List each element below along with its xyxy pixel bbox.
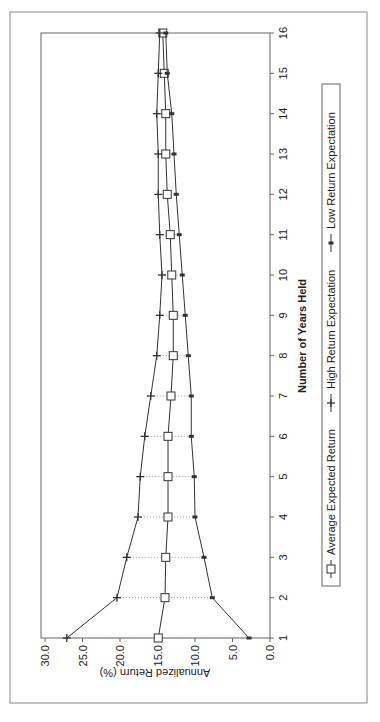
legend-label: Average Expected Return <box>325 429 337 555</box>
square-marker-icon <box>168 271 176 279</box>
y-tick-label: 5.0 <box>227 645 239 660</box>
x-tick-label: 14 <box>277 108 289 120</box>
square-marker-icon <box>167 392 175 400</box>
legend-label: High Return Expectation <box>325 270 337 389</box>
x-tick-label: 16 <box>277 27 289 39</box>
dash-marker-icon <box>202 556 207 559</box>
y-tick-label: 20.0 <box>114 645 126 666</box>
x-tick-label: 8 <box>277 353 289 359</box>
dash-marker-icon <box>186 354 191 357</box>
x-tick-label: 2 <box>277 595 289 601</box>
square-marker-icon <box>162 110 170 118</box>
x-tick-label: 10 <box>277 269 289 281</box>
y-axis-title: Annualized Return (%) <box>100 667 211 679</box>
dash-marker-icon <box>163 32 168 35</box>
x-tick-label: 9 <box>277 312 289 318</box>
x-tick-label: 6 <box>277 433 289 439</box>
square-marker-icon <box>169 311 177 319</box>
x-tick-label: 13 <box>277 148 289 160</box>
y-tick-label: 25.0 <box>77 645 89 666</box>
square-marker-icon <box>327 565 335 573</box>
x-tick-label: 12 <box>277 188 289 200</box>
x-tick-label: 11 <box>277 229 289 240</box>
x-tick-label: 15 <box>277 67 289 79</box>
x-axis-title: Number of Years Held <box>296 279 308 393</box>
y-tick-label: 30.0 <box>39 645 51 666</box>
dash-marker-icon <box>183 314 188 317</box>
dash-marker-icon <box>210 596 215 599</box>
square-marker-icon <box>162 150 170 158</box>
y-tick-label: 10.0 <box>189 645 201 666</box>
plot-area <box>41 33 270 638</box>
square-marker-icon <box>166 231 174 239</box>
square-marker-icon <box>154 634 162 642</box>
line-chart: 0.05.010.015.020.025.030.0 1234567891011… <box>0 0 380 722</box>
y-tick-label: 15.0 <box>152 645 164 666</box>
dash-marker-icon <box>180 274 185 277</box>
dash-marker-icon <box>174 193 179 196</box>
x-tick-label: 7 <box>277 393 289 399</box>
x-tick-label: 3 <box>277 554 289 560</box>
dash-marker-icon <box>189 435 194 438</box>
dash-marker-icon <box>169 112 174 115</box>
square-marker-icon <box>163 190 171 198</box>
dash-marker-icon <box>172 153 177 156</box>
legend: Average Expected ReturnHigh Return Expec… <box>322 84 340 586</box>
dash-marker-icon <box>193 516 198 519</box>
dash-marker-icon <box>329 242 334 245</box>
dash-marker-icon <box>247 637 252 640</box>
dash-marker-icon <box>189 395 194 398</box>
square-marker-icon <box>164 513 172 521</box>
dash-marker-icon <box>192 475 197 478</box>
square-marker-icon <box>169 352 177 360</box>
square-marker-icon <box>164 473 172 481</box>
dash-marker-icon <box>165 72 170 75</box>
legend-label: Low Return Expectation <box>325 112 337 229</box>
square-marker-icon <box>162 553 170 561</box>
square-marker-icon <box>164 432 172 440</box>
x-tick-label: 4 <box>277 514 289 520</box>
rotated-chart-container: 0.05.010.015.020.025.030.0 1234567891011… <box>0 0 380 722</box>
square-marker-icon <box>161 594 169 602</box>
x-tick-label: 1 <box>277 635 289 641</box>
x-tick-label: 5 <box>277 474 289 480</box>
y-tick-label: 0.0 <box>264 645 276 660</box>
dash-marker-icon <box>177 233 182 236</box>
